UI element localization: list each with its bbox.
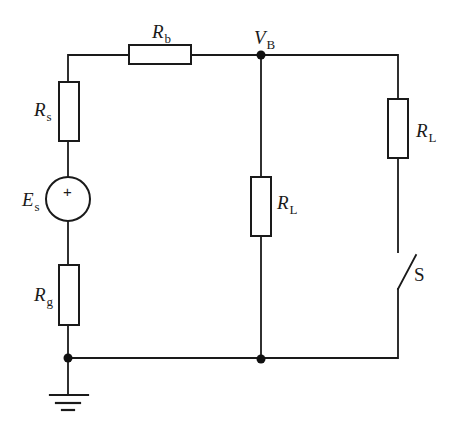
label-rs-symbol: R: [34, 99, 46, 120]
resistor-rg: [59, 265, 79, 325]
wires: [68, 55, 398, 395]
wire-switch-to-bottom: [68, 289, 398, 358]
label-rg: Rg: [34, 285, 53, 304]
label-es: Es: [22, 190, 40, 209]
label-rl-right-symbol: R: [416, 120, 428, 141]
circuit-diagram: [0, 0, 457, 430]
wire-top-left: [68, 55, 129, 82]
label-rg-subscript: g: [47, 294, 54, 309]
label-rg-symbol: R: [34, 284, 46, 305]
label-switch-s: S: [414, 265, 425, 284]
source-plus-sign: +: [63, 184, 72, 199]
label-rb-subscript: b: [165, 31, 172, 46]
label-es-symbol: E: [22, 189, 34, 210]
junction-node-ground: [64, 354, 73, 363]
ground-icon: [50, 395, 88, 410]
resistor-rl-middle: [251, 177, 271, 236]
label-vb-symbol: V: [254, 27, 266, 48]
label-rb: Rb: [152, 22, 171, 41]
resistor-rl-right: [388, 99, 408, 158]
label-vb: VB: [254, 28, 275, 47]
junction-node-vb: [257, 51, 266, 60]
label-rl-middle-subscript: L: [290, 202, 298, 217]
label-rs-subscript: s: [47, 109, 52, 124]
label-rl-middle-symbol: R: [277, 192, 289, 213]
label-es-subscript: s: [35, 199, 40, 214]
label-rl-right-subscript: L: [429, 130, 437, 145]
resistor-rb: [129, 45, 191, 64]
label-rs: Rs: [34, 100, 52, 119]
label-rl-middle: RL: [277, 193, 298, 212]
label-vb-subscript: B: [267, 37, 276, 52]
resistor-rs: [59, 82, 79, 141]
label-rl-right: RL: [416, 121, 437, 140]
label-switch-s-symbol: S: [414, 264, 425, 285]
label-rb-symbol: R: [152, 21, 164, 42]
wire-top-right: [261, 55, 398, 99]
junction-node-bottom-middle: [257, 355, 266, 364]
